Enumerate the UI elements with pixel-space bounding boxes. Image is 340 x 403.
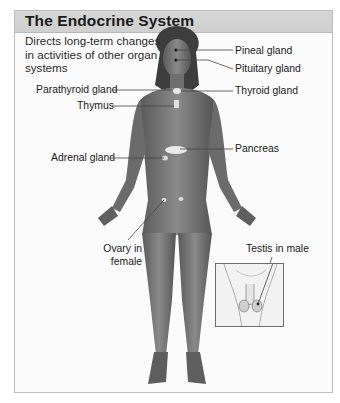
label-ovary-line1: Ovary in — [100, 243, 142, 255]
label-thyroid-gland: Thyroid gland — [235, 85, 298, 97]
male-inset-illustration — [215, 263, 284, 327]
male-pelvis-drawing — [216, 264, 284, 327]
label-ovary-line2: female — [100, 256, 142, 268]
ovary-marker-right — [179, 197, 184, 201]
thyroid-gland-marker — [173, 88, 181, 94]
label-thymus: Thymus — [77, 100, 114, 112]
label-pancreas: Pancreas — [235, 143, 279, 155]
pancreas-marker — [165, 146, 187, 154]
label-testis: Testis in male — [246, 243, 309, 255]
label-pineal-gland: Pineal gland — [235, 45, 292, 57]
figure-description: Directs long-term changes in activities … — [25, 34, 165, 75]
body-silhouette — [98, 26, 256, 384]
thymus-marker — [174, 100, 179, 108]
label-pituitary-gland: Pituitary gland — [235, 63, 301, 75]
label-parathyroid-gland: Parathyroid gland — [36, 84, 117, 96]
label-adrenal-gland: Adrenal gland — [51, 152, 115, 164]
